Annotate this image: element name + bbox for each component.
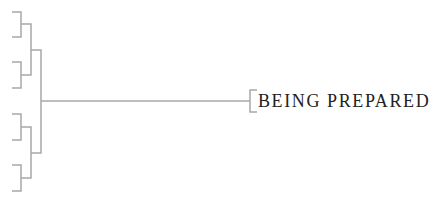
final-label: BEING PREPARED [258, 90, 430, 112]
final-label-bracket [250, 90, 257, 112]
round2-bracket-top [21, 24, 31, 75]
leaf-bracket-4 [12, 165, 21, 191]
leaf-bracket-2 [12, 62, 21, 88]
round2-bracket-bottom [21, 127, 31, 178]
leaf-bracket-3 [12, 114, 21, 140]
round3-bracket [31, 50, 41, 153]
leaf-bracket-1 [12, 12, 21, 37]
